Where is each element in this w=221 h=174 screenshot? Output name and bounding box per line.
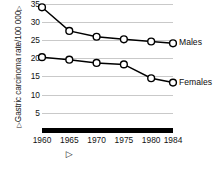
data-point-marker bbox=[120, 61, 127, 68]
x-axis-tick-labels: 196019651970197519801984 bbox=[0, 136, 221, 148]
y-tick-label: 30 bbox=[14, 18, 40, 26]
data-point-marker bbox=[66, 28, 73, 35]
x-axis-marker-icon: ▷ bbox=[66, 150, 73, 159]
series-label-females: Females bbox=[179, 78, 212, 87]
data-point-marker bbox=[93, 60, 100, 67]
x-tick-label: 1960 bbox=[33, 136, 52, 144]
series-lines bbox=[42, 0, 173, 131]
plot-area bbox=[42, 0, 173, 131]
y-tick-label: 35 bbox=[14, 0, 40, 8]
data-point-marker bbox=[93, 33, 100, 40]
x-tick-label: 1965 bbox=[60, 136, 79, 144]
data-point-marker bbox=[170, 79, 177, 86]
data-point-marker bbox=[39, 54, 46, 61]
y-tick-label: 10 bbox=[14, 91, 40, 99]
series-line-males bbox=[42, 7, 173, 43]
y-tick-label: 15 bbox=[14, 72, 40, 80]
y-tick-label: 20 bbox=[14, 54, 40, 62]
x-axis-bar bbox=[42, 128, 173, 133]
y-tick-label: 25 bbox=[14, 36, 40, 44]
data-point-marker bbox=[66, 56, 73, 63]
data-point-marker bbox=[148, 38, 155, 45]
y-tick-label: 5 bbox=[14, 109, 40, 117]
x-tick-label: 1970 bbox=[87, 136, 106, 144]
data-point-marker bbox=[148, 75, 155, 82]
gastric-carcinoma-line-chart: ▷Gastric carcinoma rate/100 000▷ 5101520… bbox=[0, 0, 221, 174]
data-point-marker bbox=[39, 4, 46, 11]
x-tick-label: 1984 bbox=[164, 136, 183, 144]
x-tick-label: 1980 bbox=[142, 136, 161, 144]
data-point-marker bbox=[120, 36, 127, 43]
data-point-marker bbox=[170, 40, 177, 47]
x-tick-label: 1975 bbox=[115, 136, 134, 144]
series-label-males: Males bbox=[179, 38, 202, 47]
